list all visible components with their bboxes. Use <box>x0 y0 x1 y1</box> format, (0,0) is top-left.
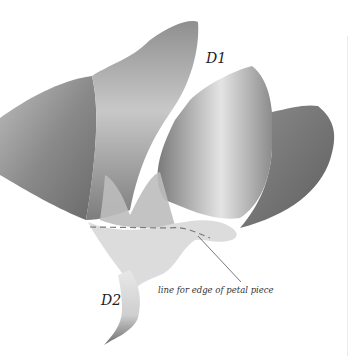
label-d2: D2 <box>101 292 121 308</box>
callout-petal-edge-note: line for edge of petal piece <box>158 285 274 295</box>
callout-leader-line <box>198 236 241 282</box>
page-edge-divider <box>347 36 348 356</box>
label-d1: D1 <box>206 50 226 66</box>
calyx <box>88 220 237 290</box>
petal-left <box>0 76 96 220</box>
flower-illustration: D1 D2 line for edge of petal piece <box>0 0 357 359</box>
